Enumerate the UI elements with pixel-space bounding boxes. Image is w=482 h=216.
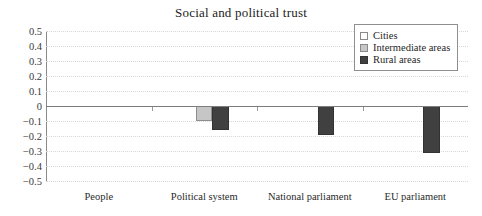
- y-axis-tick-label: 0.4: [29, 41, 42, 52]
- x-axis-label: Political system: [171, 191, 238, 202]
- gridline: [46, 166, 468, 167]
- bar-political-system-intermediate: [196, 106, 212, 121]
- y-axis-tick-label: −0.2: [23, 131, 42, 142]
- legend-label-rural-areas: Rural areas: [373, 54, 421, 65]
- legend-item-rural-areas: Rural areas: [360, 54, 450, 65]
- legend-swatch-cities-icon: [360, 32, 368, 40]
- bar-political-system-rural: [212, 106, 228, 130]
- gridline: [46, 136, 468, 137]
- bar-eu-parliament-rural: [423, 106, 439, 153]
- legend-label-intermediate-areas: Intermediate areas: [373, 42, 450, 53]
- legend-item-cities: Cities: [360, 30, 450, 41]
- y-axis-tick-label: 0.5: [29, 26, 42, 37]
- y-axis-tick-label: −0.4: [23, 161, 42, 172]
- legend-swatch-intermediate-areas-icon: [360, 44, 368, 52]
- y-axis-tick-label: −0.3: [23, 146, 42, 157]
- bar-national-parliament-rural: [318, 106, 334, 135]
- y-axis-tick-label: 0.1: [29, 86, 42, 97]
- x-axis-label: National parliament: [268, 191, 352, 202]
- gridline: [46, 181, 468, 182]
- gridline: [46, 76, 468, 77]
- y-axis-tick-label: 0: [37, 101, 42, 112]
- legend-label-cities: Cities: [373, 30, 398, 41]
- x-axis-label: People: [84, 191, 113, 202]
- y-axis-tick-label: −0.5: [23, 176, 42, 187]
- gridline: [46, 91, 468, 92]
- zero-baseline: [46, 106, 468, 107]
- chart-container: Social and political trust 0.50.40.30.20…: [0, 0, 482, 216]
- gridline: [46, 121, 468, 122]
- y-axis-tick-label: 0.2: [29, 71, 42, 82]
- legend-item-intermediate-areas: Intermediate areas: [360, 42, 450, 53]
- gridline: [46, 151, 468, 152]
- chart-legend: Cities Intermediate areas Rural areas: [354, 24, 458, 71]
- chart-title: Social and political trust: [0, 5, 482, 21]
- x-axis-label: EU parliament: [384, 191, 446, 202]
- y-axis-tick-label: 0.3: [29, 56, 42, 67]
- legend-swatch-rural-areas-icon: [360, 56, 368, 64]
- y-axis-tick-label: −0.1: [23, 116, 42, 127]
